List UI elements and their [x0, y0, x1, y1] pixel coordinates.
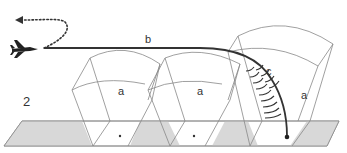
ground-segment [4, 121, 92, 146]
flight-path-label: b [145, 34, 151, 45]
return-path [15, 16, 67, 48]
figure-number-label: 2 [23, 95, 30, 108]
zone-label-2: a [197, 86, 203, 97]
zone-label-1: a [118, 86, 124, 97]
ground-strip [4, 121, 339, 146]
zone-label-3: a [301, 90, 307, 101]
dotted-arrow-left-icon [15, 16, 23, 24]
jet-aircraft-icon [10, 40, 38, 58]
diagram-canvas [0, 0, 347, 153]
dot-icon [285, 135, 290, 140]
descent-trajectory-c [246, 65, 281, 118]
descent-label: c [266, 66, 272, 77]
